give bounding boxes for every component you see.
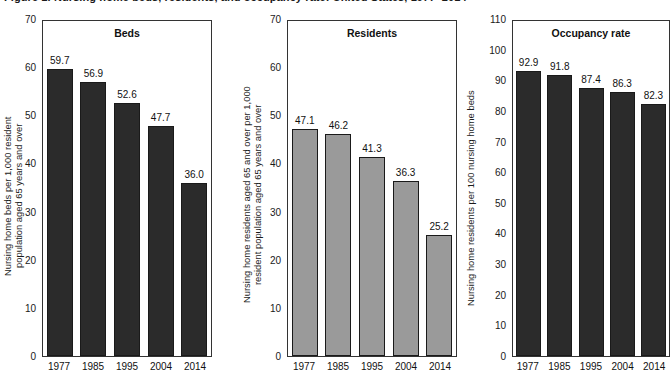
- y-tick-label: 30: [270, 208, 281, 218]
- chart-panel-occupancy: Nursing home residents per 100 nursing h…: [460, 0, 672, 383]
- chart-panel-residents: Nursing home residents aged 65 and over …: [215, 0, 460, 383]
- y-tick-label: 0: [275, 352, 281, 362]
- bar-item[interactable]: 91.8: [544, 21, 575, 356]
- x-tick-label: 1977: [42, 361, 76, 372]
- bar-item[interactable]: 25.2: [422, 21, 456, 356]
- x-axis-labels-beds: 19771985199520042014: [42, 361, 212, 372]
- x-axis-labels-residents: 19771985199520042014: [287, 361, 457, 372]
- x-tick-label: 1985: [544, 361, 576, 372]
- bar-item[interactable]: 41.3: [355, 21, 389, 356]
- bar[interactable]: [579, 88, 604, 356]
- bar-group-beds: 59.756.952.647.736.0: [43, 21, 211, 356]
- y-tick-label: 10: [270, 304, 281, 314]
- bar-item[interactable]: 86.3: [607, 21, 638, 356]
- y-tick-label: 30: [25, 208, 36, 218]
- bar[interactable]: [641, 104, 666, 356]
- bar[interactable]: [426, 235, 452, 356]
- bar[interactable]: [114, 103, 140, 356]
- y-tick-label: 50: [270, 111, 281, 121]
- x-tick-label: 1995: [575, 361, 607, 372]
- y-axis-ticks-beds: 706050403020100: [14, 0, 36, 357]
- bar-item[interactable]: 87.4: [575, 21, 606, 356]
- plot-area-beds: Beds 59.756.952.647.736.0: [42, 20, 212, 357]
- bar-value-label: 82.3: [630, 91, 672, 101]
- bar[interactable]: [359, 157, 385, 356]
- x-tick-label: 1995: [355, 361, 389, 372]
- bar-value-label: 25.2: [416, 222, 462, 232]
- y-tick-label: 110: [490, 15, 506, 25]
- bar[interactable]: [181, 183, 207, 356]
- y-tick-label: 50: [495, 199, 506, 209]
- y-tick-label: 60: [270, 63, 281, 73]
- bar[interactable]: [148, 126, 174, 356]
- y-tick-label: 50: [25, 111, 36, 121]
- y-tick-label: 90: [495, 76, 506, 86]
- y-tick-label: 40: [25, 159, 36, 169]
- x-tick-label: 1977: [287, 361, 321, 372]
- x-tick-label: 2004: [144, 361, 178, 372]
- y-tick-label: 70: [270, 15, 281, 25]
- bar-item[interactable]: 47.1: [288, 21, 322, 356]
- bar[interactable]: [393, 181, 419, 356]
- chart-panel-beds: Nursing home beds per 1,000 resident pop…: [0, 0, 215, 383]
- y-axis-ticks-residents: 706050403020100: [259, 0, 281, 357]
- y-tick-label: 80: [495, 107, 506, 117]
- y-axis-ticks-occupancy: 1101009080706050403020100: [484, 0, 506, 357]
- bar[interactable]: [325, 134, 351, 356]
- bar-group-occupancy: 92.991.887.486.382.3: [513, 21, 669, 356]
- y-axis-title-occupancy: Nursing home residents per 100 nursing h…: [465, 48, 476, 348]
- y-tick-label: 30: [495, 260, 506, 270]
- y-tick-label: 60: [495, 168, 506, 178]
- y-tick-label: 60: [25, 63, 36, 73]
- x-tick-label: 1977: [512, 361, 544, 372]
- bar-item[interactable]: 82.3: [638, 21, 669, 356]
- bar-value-label: 36.0: [171, 170, 217, 180]
- x-tick-label: 1985: [321, 361, 355, 372]
- bar-item[interactable]: 56.9: [77, 21, 111, 356]
- y-tick-label: 10: [25, 304, 36, 314]
- x-tick-label: 1985: [76, 361, 110, 372]
- bar[interactable]: [610, 92, 635, 356]
- x-tick-label: 2004: [389, 361, 423, 372]
- y-tick-label: 20: [25, 256, 36, 266]
- y-tick-label: 0: [500, 352, 506, 362]
- x-tick-label: 2014: [178, 361, 212, 372]
- bar[interactable]: [80, 82, 106, 356]
- bar-group-residents: 47.146.241.336.325.2: [288, 21, 456, 356]
- bar-item[interactable]: 47.7: [144, 21, 178, 356]
- x-tick-label: 1995: [110, 361, 144, 372]
- x-tick-label: 2004: [607, 361, 639, 372]
- x-axis-labels-occupancy: 19771985199520042014: [512, 361, 670, 372]
- bar[interactable]: [47, 69, 73, 356]
- y-tick-label: 20: [270, 256, 281, 266]
- y-tick-label: 20: [495, 291, 506, 301]
- bar-item[interactable]: 36.3: [389, 21, 423, 356]
- bar-item[interactable]: 52.6: [110, 21, 144, 356]
- y-tick-label: 100: [489, 46, 506, 56]
- plot-area-residents: Residents 47.146.241.336.325.2: [287, 20, 457, 357]
- y-tick-label: 40: [495, 229, 506, 239]
- y-tick-label: 40: [270, 159, 281, 169]
- y-tick-label: 70: [25, 15, 36, 25]
- bar[interactable]: [516, 71, 541, 356]
- bar[interactable]: [292, 129, 318, 356]
- x-tick-label: 2014: [423, 361, 457, 372]
- y-tick-label: 70: [495, 138, 506, 148]
- figure-container: Figure 1. Nursing home beds, residents, …: [0, 0, 672, 383]
- bar-item[interactable]: 46.2: [322, 21, 356, 356]
- bar-item[interactable]: 36.0: [177, 21, 211, 356]
- plot-area-occupancy: Occupancy rate 92.991.887.486.382.3: [512, 20, 670, 357]
- y-tick-label: 0: [30, 352, 36, 362]
- y-tick-label: 10: [495, 321, 506, 331]
- bar[interactable]: [547, 75, 572, 356]
- x-tick-label: 2014: [638, 361, 670, 372]
